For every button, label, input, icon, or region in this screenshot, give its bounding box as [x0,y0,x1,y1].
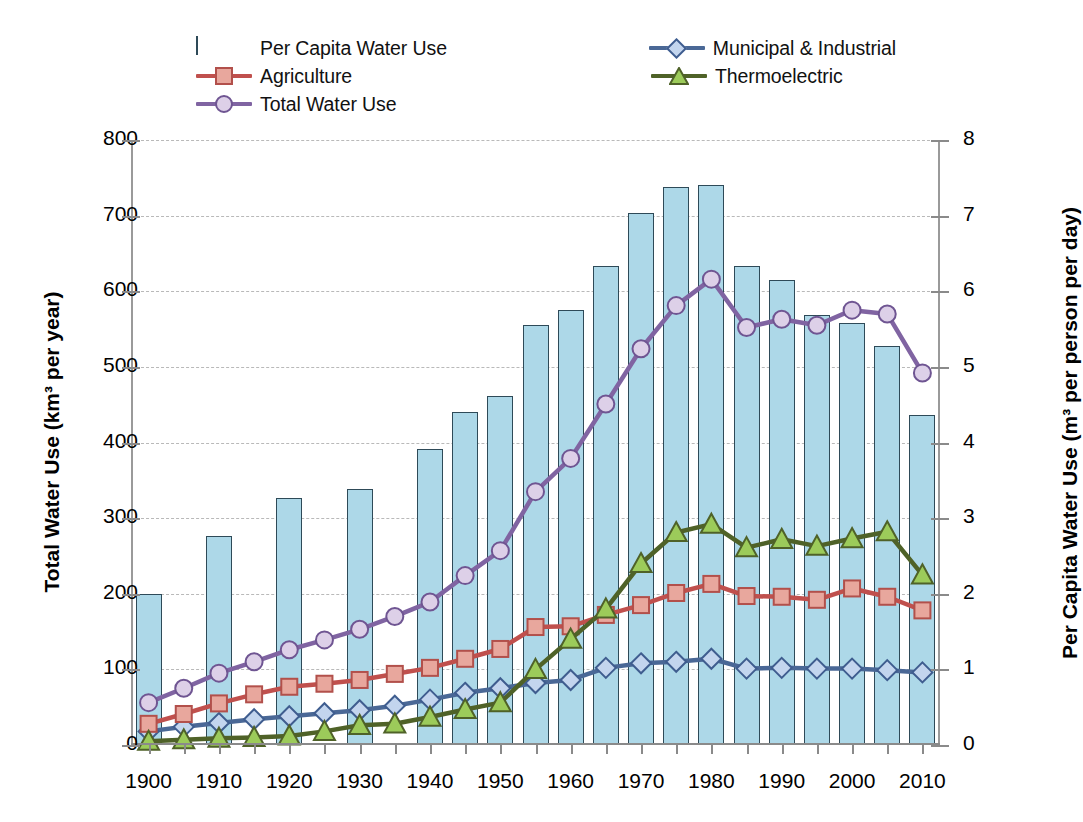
x-axis-tick [711,745,713,754]
data-point-marker [316,631,333,648]
plot-area [131,140,940,745]
data-point-marker [596,658,616,678]
y-axis-left-tick [122,140,140,142]
legend-row-1: Per Capita Water Use Municipal & Industr… [196,34,896,62]
data-point-marker [703,271,720,288]
x-axis-tick-label: 1980 [671,769,751,793]
data-point-marker [246,686,262,702]
x-axis-tick-label: 1970 [601,769,681,793]
data-point-marker [912,662,932,682]
y-axis-right-tick-label: 1 [963,655,1003,679]
data-point-marker [739,588,755,604]
data-point-marker [774,589,790,605]
y-axis-left-tick-label: 600 [68,277,138,301]
legend-item-per-capita-water-use[interactable]: Per Capita Water Use [196,37,649,60]
y-axis-left-tick-label: 400 [68,429,138,453]
y-axis-right-tick-label: 2 [963,580,1003,604]
data-point-marker [492,641,508,657]
y-axis-left-tick [122,216,140,218]
data-point-marker [809,592,825,608]
y-axis-right-tick [931,216,949,218]
data-point-marker [668,297,685,314]
x-axis-tick-label: 1900 [109,769,189,793]
y-axis-right-title: Per Capita Water Use (m³ per person per … [1058,229,1082,659]
data-point-marker [281,641,298,658]
data-point-marker [387,666,403,682]
y-axis-right-tick-label: 3 [963,504,1003,528]
data-point-marker [386,608,403,625]
x-axis-tick-label: 1910 [179,769,259,793]
data-point-marker [528,619,544,635]
line-diamond-swatch-icon [649,37,705,59]
data-point-marker [631,653,651,673]
x-axis-tick [430,745,432,754]
data-point-marker [877,660,897,680]
x-axis-tick [360,745,362,754]
y-axis-right-tick-label: 7 [963,202,1003,226]
y-axis-left-tick-label: 200 [68,580,138,604]
y-axis-left-tick [122,291,140,293]
data-point-marker [808,317,825,334]
y-axis-right-tick-label: 0 [963,731,1003,755]
legend-label: Thermoelectric [715,65,843,88]
y-axis-left-tick [122,669,140,671]
data-point-marker [879,305,896,322]
legend-label: Municipal & Industrial [713,37,896,60]
x-axis-tick [149,745,151,754]
legend-item-agriculture[interactable]: Agriculture [196,65,651,88]
x-axis-tick [219,745,221,754]
y-axis-left-tick [122,443,140,445]
y-axis-left-tick-label: 100 [68,655,138,679]
x-axis-tick [782,745,784,754]
x-axis-tick [817,745,819,754]
data-point-marker [701,649,721,669]
x-axis-tick-label: 1990 [742,769,822,793]
x-axis-tick-label: 2000 [812,769,892,793]
y-axis-left-title: Total Water Use (km³ per year) [40,227,64,657]
data-point-marker [597,395,614,412]
y-axis-right-tick [931,745,949,747]
data-point-marker [633,340,650,357]
x-axis-tick [289,745,291,754]
y-axis-right-tick [931,140,949,142]
data-point-marker [211,695,227,711]
legend-item-total-water-use[interactable]: Total Water Use [196,93,651,116]
legend-row-3: Total Water Use [196,90,896,118]
data-point-marker [842,659,862,679]
data-point-marker [279,706,299,726]
x-axis-tick-label: 2010 [882,769,962,793]
data-point-marker [316,676,332,692]
data-point-marker [914,364,931,381]
x-axis-tick [395,745,397,754]
data-point-marker [175,680,192,697]
y-axis-left-tick-label: 800 [68,126,138,150]
x-axis-tick [254,745,256,754]
data-point-marker [703,576,719,592]
x-axis-tick [500,745,502,754]
data-point-marker [210,665,227,682]
legend-item-thermoelectric[interactable]: Thermoelectric [651,65,843,88]
x-axis-tick [324,745,326,754]
chart-figure: Per Capita Water Use Municipal & Industr… [0,0,1083,822]
y-axis-left-tick-label: 500 [68,353,138,377]
y-axis-right-title-text: Per Capita Water Use (m³ per person per … [1058,207,1081,659]
data-point-marker [351,621,368,638]
line-triangle-swatch-icon [651,65,707,87]
x-axis-tick [641,745,643,754]
y-axis-right-tick [931,291,949,293]
legend-row-2: Agriculture Thermoelectric [196,62,896,90]
data-point-marker [666,652,686,672]
y-axis-left-tick [122,367,140,369]
data-point-marker [701,514,722,533]
x-axis-tick [606,745,608,754]
y-axis-left-tick-label: 0 [68,731,138,755]
legend-item-municipal-industrial[interactable]: Municipal & Industrial [649,37,896,60]
x-axis-tick [747,745,749,754]
data-point-marker [773,311,790,328]
data-point-marker [492,542,509,559]
data-point-marker [914,602,930,618]
y-axis-left-title-text: Total Water Use (km³ per year) [40,291,63,592]
data-point-marker [877,521,898,540]
y-axis-right-tick [931,443,949,445]
chart-legend: Per Capita Water Use Municipal & Industr… [196,34,896,118]
